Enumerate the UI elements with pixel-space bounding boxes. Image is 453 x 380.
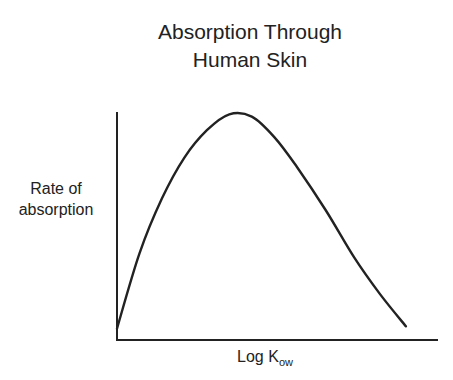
x-axis-label-main: Log K — [237, 348, 279, 365]
absorption-curve — [117, 113, 406, 329]
plot-area — [0, 0, 453, 380]
x-axis-label-subscript: ow — [279, 356, 293, 368]
x-axis-label: Log Kow — [200, 347, 330, 372]
